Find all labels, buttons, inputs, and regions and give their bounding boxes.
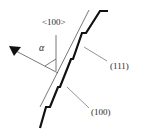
leader-111 [84, 47, 107, 61]
terrace-facet-label: (100) [91, 108, 111, 117]
arrow-head-icon [9, 46, 21, 56]
direction-label: <100> [42, 18, 66, 27]
angle-arc [45, 59, 56, 66]
diagram-canvas: <100> α (111) (100) [0, 0, 141, 138]
leader-100 [67, 87, 89, 108]
angle-label: α [39, 43, 44, 52]
step-facet-label: (111) [110, 62, 129, 71]
